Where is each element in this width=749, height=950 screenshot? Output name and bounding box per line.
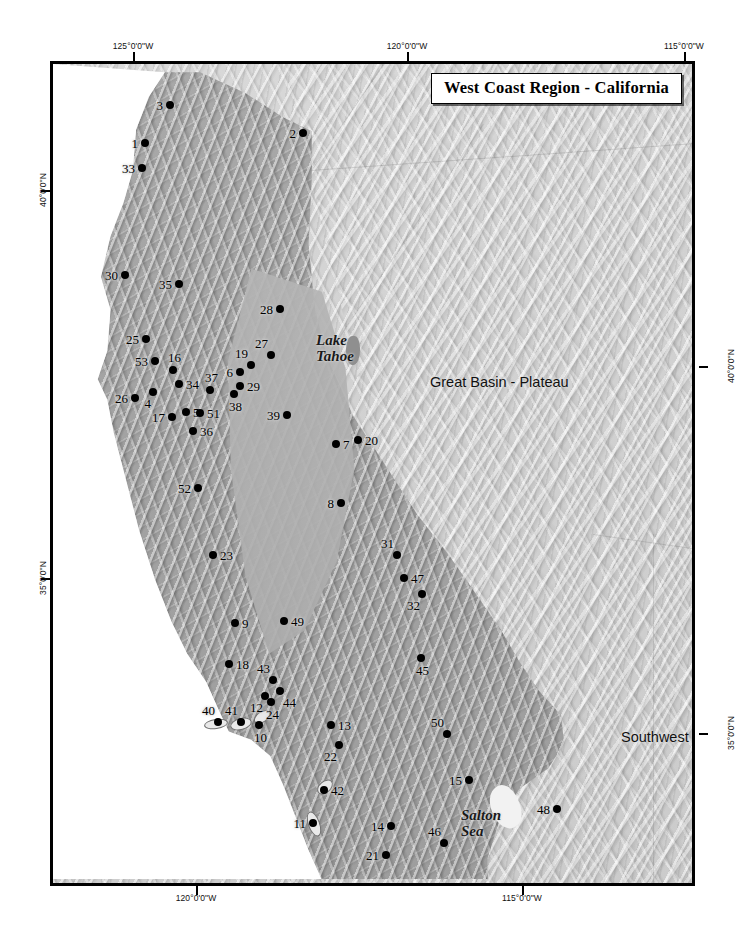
site-marker-icon[interactable] (196, 409, 204, 417)
site-marker-icon[interactable] (393, 551, 401, 559)
site-marker-icon[interactable] (166, 101, 174, 109)
site-label-41: 41 (225, 704, 238, 717)
site-marker-icon[interactable] (276, 305, 284, 313)
site-marker-icon[interactable] (236, 382, 244, 390)
site-label-3: 3 (157, 99, 164, 112)
site-marker-icon[interactable] (231, 619, 239, 627)
site-marker-icon[interactable] (418, 590, 426, 598)
site-marker-icon[interactable] (335, 741, 343, 749)
site-marker-icon[interactable] (280, 617, 288, 625)
site-marker-icon[interactable] (225, 660, 233, 668)
site-marker-icon[interactable] (276, 687, 284, 695)
map-label-southwest: Southwest (621, 729, 689, 745)
site-marker-icon[interactable] (440, 839, 448, 847)
site-marker-icon[interactable] (189, 427, 197, 435)
map-frame: LakeTahoeGreat Basin - PlateauSouthwestS… (50, 61, 695, 886)
site-marker-icon[interactable] (354, 436, 362, 444)
site-label-6: 6 (227, 366, 234, 379)
site-marker-icon[interactable] (175, 380, 183, 388)
site-marker-icon[interactable] (269, 676, 277, 684)
site-marker-icon[interactable] (209, 551, 217, 559)
site-label-31: 31 (381, 537, 394, 550)
site-label-49: 49 (291, 615, 304, 628)
site-marker-icon[interactable] (267, 698, 275, 706)
site-label-37: 37 (205, 371, 218, 384)
site-label-24: 24 (266, 708, 279, 721)
site-marker-icon[interactable] (400, 574, 408, 582)
site-marker-icon[interactable] (309, 819, 317, 827)
site-marker-icon[interactable] (417, 654, 425, 662)
site-label-36: 36 (200, 425, 213, 438)
axis-label-right-35n: 35°0'0"N (726, 716, 736, 750)
map-label-great-basin: Great Basin - Plateau (430, 374, 569, 390)
map-label-line: Salton (461, 808, 501, 824)
site-marker-icon[interactable] (121, 271, 129, 279)
site-marker-icon[interactable] (194, 484, 202, 492)
site-label-33: 33 (122, 162, 135, 175)
site-marker-icon[interactable] (465, 776, 473, 784)
map-figure: 125°0'0"W 120°0'0"W 115°0'0"W 120°0'0"W … (0, 0, 749, 950)
site-label-28: 28 (260, 303, 273, 316)
site-label-40: 40 (202, 704, 215, 717)
site-label-38: 38 (229, 400, 242, 413)
site-marker-icon[interactable] (131, 394, 139, 402)
site-label-51: 51 (207, 407, 220, 420)
site-marker-icon[interactable] (141, 139, 149, 147)
site-label-19: 19 (235, 347, 248, 360)
site-marker-icon[interactable] (283, 411, 291, 419)
site-marker-icon[interactable] (175, 280, 183, 288)
site-marker-icon[interactable] (337, 499, 345, 507)
site-label-47: 47 (411, 572, 424, 585)
tick-right-40n (699, 366, 708, 368)
site-label-30: 30 (105, 269, 118, 282)
site-label-14: 14 (371, 820, 384, 833)
site-label-22: 22 (324, 750, 337, 763)
site-marker-icon[interactable] (168, 413, 176, 421)
site-marker-icon[interactable] (267, 351, 275, 359)
site-marker-icon[interactable] (299, 129, 307, 137)
site-marker-icon[interactable] (236, 368, 244, 376)
site-label-4: 4 (145, 397, 152, 410)
site-label-25: 25 (126, 333, 139, 346)
site-marker-icon[interactable] (247, 361, 255, 369)
tick-top-120w (407, 52, 409, 61)
site-marker-icon[interactable] (151, 357, 159, 365)
axis-label-top-115w: 115°0'0"W (664, 41, 704, 51)
graticule-line-5 (653, 534, 654, 886)
axis-label-bottom-115w: 115°0'0"W (502, 893, 542, 903)
site-label-23: 23 (220, 549, 233, 562)
site-marker-icon[interactable] (327, 721, 335, 729)
site-marker-icon[interactable] (169, 366, 177, 374)
site-marker-icon[interactable] (237, 718, 245, 726)
axis-label-left-40n: 40°0'0"N (38, 173, 48, 207)
site-marker-icon[interactable] (142, 335, 150, 343)
site-marker-icon[interactable] (443, 730, 451, 738)
site-marker-icon[interactable] (320, 786, 328, 794)
site-marker-icon[interactable] (138, 164, 146, 172)
site-marker-icon[interactable] (206, 386, 214, 394)
site-marker-icon[interactable] (230, 390, 238, 398)
site-label-39: 39 (267, 409, 280, 422)
site-marker-icon[interactable] (553, 805, 561, 813)
site-label-21: 21 (366, 849, 379, 862)
axis-label-top-125w: 125°0'0"W (113, 41, 154, 51)
site-label-46: 46 (428, 825, 441, 838)
site-marker-icon[interactable] (332, 440, 340, 448)
site-label-9: 9 (242, 617, 249, 630)
site-label-13: 13 (338, 719, 351, 732)
site-label-53: 53 (135, 355, 148, 368)
site-label-8: 8 (328, 497, 335, 510)
site-marker-icon[interactable] (387, 822, 395, 830)
site-marker-icon[interactable] (214, 718, 222, 726)
site-marker-icon[interactable] (255, 721, 263, 729)
site-label-2: 2 (290, 127, 297, 140)
site-marker-icon[interactable] (382, 851, 390, 859)
map-label-line: Sea (461, 824, 501, 840)
site-label-18: 18 (236, 658, 249, 671)
map-label-line: Lake (316, 333, 354, 349)
site-label-42: 42 (331, 784, 344, 797)
site-marker-icon[interactable] (182, 408, 190, 416)
site-label-35: 35 (159, 278, 172, 291)
site-label-44: 44 (283, 696, 296, 709)
site-marker-icon[interactable] (149, 388, 157, 396)
